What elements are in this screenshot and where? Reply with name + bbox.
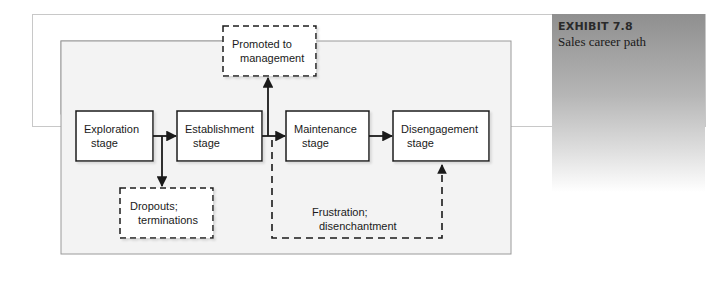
exploration-line2: stage xyxy=(91,137,118,149)
promoted-line2: management xyxy=(240,52,304,64)
stage-box-exploration xyxy=(76,111,153,161)
promoted-line1: Promoted to xyxy=(232,38,292,50)
establishment-line1: Establishment xyxy=(185,123,254,135)
outcome-box-dropouts xyxy=(120,188,213,238)
dropouts-line1: Dropouts; xyxy=(130,200,178,212)
exploration-line1: Exploration xyxy=(84,123,139,135)
establishment-line2: stage xyxy=(193,137,220,149)
maintenance-line2: stage xyxy=(302,137,329,149)
career-path-diagram: Promoted to management Exploration stage… xyxy=(0,0,711,281)
disengagement-line1: Disengagement xyxy=(401,123,478,135)
outcome-box-promoted xyxy=(223,26,316,76)
frustration-line1: Frustration; xyxy=(312,206,368,218)
stage-box-disengagement xyxy=(393,111,489,161)
dropouts-line2: terminations xyxy=(138,214,198,226)
disengagement-line2: stage xyxy=(407,137,434,149)
maintenance-line1: Maintenance xyxy=(294,123,357,135)
stage-box-establishment xyxy=(177,111,262,161)
stage-box-maintenance xyxy=(286,111,369,161)
frustration-line2: disenchantment xyxy=(319,220,397,232)
